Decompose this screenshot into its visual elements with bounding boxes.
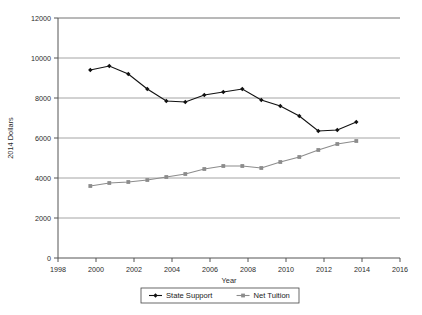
y-axis-title: 2014 Dollars <box>6 117 15 159</box>
y-axis-tick-label: 6000 <box>35 134 51 143</box>
data-point <box>88 184 92 188</box>
x-axis-tick-label: 2008 <box>240 265 256 274</box>
y-axis-tick-label: 2000 <box>35 214 51 223</box>
x-axis-tick-label: 2010 <box>278 265 294 274</box>
data-point <box>202 167 206 171</box>
legend-marker-2 <box>241 294 245 298</box>
data-point <box>164 175 168 179</box>
chart-container: 020004000600080001000012000 199820002002… <box>0 0 422 315</box>
x-axis-tick-label: 1998 <box>50 265 66 274</box>
data-point <box>240 164 244 168</box>
x-axis-tick-label: 2014 <box>354 265 370 274</box>
y-axis-tick-label: 12000 <box>31 14 51 23</box>
line-chart: 020004000600080001000012000 199820002002… <box>0 0 422 315</box>
x-axis-tick-label: 2002 <box>126 265 142 274</box>
legend-label-1: State Support <box>166 291 213 300</box>
data-point <box>259 166 263 170</box>
y-axis-tick-label: 4000 <box>35 174 51 183</box>
data-point <box>335 142 339 146</box>
data-point <box>107 181 111 185</box>
legend-label-2: Net Tuition <box>254 291 290 300</box>
x-axis-tick-label: 2006 <box>202 265 218 274</box>
data-point <box>278 160 282 164</box>
y-axis-tick-label: 10000 <box>31 54 51 63</box>
data-point <box>183 172 187 176</box>
y-axis-tick-label: 0 <box>47 254 51 263</box>
data-point <box>126 180 130 184</box>
x-axis-tick-label: 2012 <box>316 265 332 274</box>
x-axis-title: Year <box>222 276 237 285</box>
x-axis-tick-label: 2016 <box>392 265 408 274</box>
x-axis-tick-label: 2004 <box>164 265 180 274</box>
data-point <box>145 178 149 182</box>
data-point <box>316 148 320 152</box>
x-axis-tick-label: 2000 <box>88 265 104 274</box>
data-point <box>354 139 358 143</box>
y-axis-tick-label: 8000 <box>35 94 51 103</box>
data-point <box>221 164 225 168</box>
data-point <box>297 155 301 159</box>
